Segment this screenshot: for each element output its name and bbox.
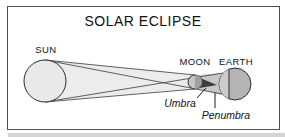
sun-circle: [24, 60, 66, 102]
umbra-label: Umbra: [164, 97, 196, 109]
eclipse-diagram: SOLAR ECLIPSE SUN MOON EARTH Umbra Penum…: [0, 0, 285, 137]
earth-label: EARTH: [219, 56, 253, 67]
sun-label: SUN: [35, 44, 56, 55]
moon-label: MOON: [179, 56, 210, 67]
solar-eclipse-figure: SOLAR ECLIPSE SUN MOON EARTH Umbra Penum…: [0, 0, 285, 137]
penumbra-label: Penumbra: [202, 109, 251, 121]
figure-title: SOLAR ECLIPSE: [85, 13, 202, 29]
